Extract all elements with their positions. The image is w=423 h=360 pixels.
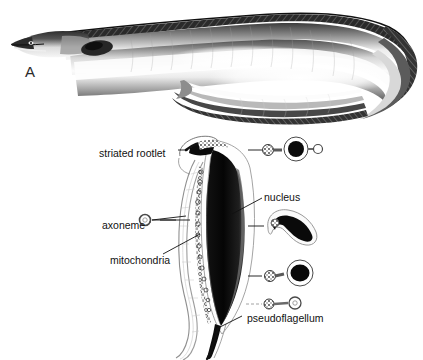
inset-3-neck — [275, 274, 284, 276]
inset-4-bridge — [274, 303, 288, 304]
inset-1-axoneme — [263, 145, 274, 156]
panel-letter-a: A — [25, 63, 36, 80]
label-pseudoflagellum: pseudoflagellum — [247, 313, 323, 324]
body-highlight-2 — [170, 45, 326, 71]
panel-b-spermatozoon: B — [0, 128, 423, 360]
label-striated-rootlet: striated rootlet — [99, 148, 166, 159]
label-nucleus: nucleus — [264, 192, 300, 203]
inset-3-axoneme — [265, 271, 276, 282]
inset-2-axoneme — [271, 219, 279, 227]
label-mitochondria: mitochondria — [110, 255, 170, 266]
figure-plate: A — [0, 0, 423, 360]
eel-illustration — [0, 0, 423, 130]
inset-1-nucleus — [288, 141, 304, 157]
eel-pupil — [30, 42, 32, 44]
panel-a-eel: A — [0, 0, 423, 130]
label-axoneme: axoneme — [102, 220, 145, 231]
inset-4-axoneme — [264, 299, 274, 309]
spermatozoon-drawing — [0, 128, 423, 360]
inset-3-nucleus — [291, 265, 310, 282]
